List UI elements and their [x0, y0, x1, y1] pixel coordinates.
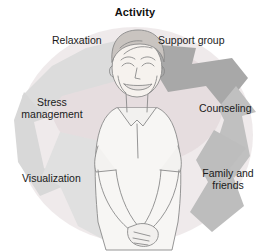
label-counseling: Counseling [199, 102, 252, 114]
center-figure-illustration [0, 0, 270, 251]
label-family-and-friends: Family and friends [194, 167, 262, 191]
label-stress-management: Stress management [14, 96, 90, 120]
label-visualization: Visualization [22, 172, 81, 184]
label-relaxation: Relaxation [52, 34, 102, 46]
label-support-group: Support group [158, 34, 225, 46]
diagram-canvas: Activity [0, 0, 270, 251]
